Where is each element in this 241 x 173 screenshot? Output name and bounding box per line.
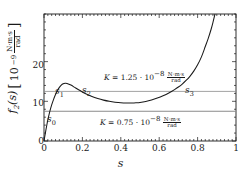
k-upper-unit-fraction: N·m·s rad (167, 72, 185, 84)
k-lower-dot: · (136, 118, 138, 127)
point-label-s1: s1 (55, 86, 64, 99)
point-label-s2: s2 (82, 85, 91, 98)
annotation-k-upper: K = 1.25 · 10−8 N·m·s rad (104, 70, 185, 84)
x-axis-label: s (0, 157, 241, 170)
k-threshold-lines (44, 91, 236, 111)
annotation-k-lower: K = 0.75 · 10−8 N·m·s rad (100, 115, 181, 129)
point-label-s0: s0 (47, 114, 56, 127)
plot-area (0, 0, 241, 173)
k-upper-equals: = (112, 73, 118, 82)
k-upper-base: 10 (145, 73, 155, 82)
k-lower-exponent: −8 (150, 115, 160, 123)
point-label-s3: s3 (185, 85, 194, 98)
k-upper-dot: · (140, 73, 142, 82)
k-upper-symbol: K (104, 73, 110, 82)
k-lower-unit-denominator: rad (166, 123, 177, 129)
k-lower-symbol: K (100, 118, 106, 127)
k-upper-unit-denominator: rad (170, 78, 181, 84)
k-upper-coefficient: 1.25 (121, 73, 138, 82)
figure-f2-of-s: f2(s) [ 10−9 N·m·s rad ] 0 10 20 0 0.2 0… (0, 0, 241, 173)
k-lower-base: 10 (141, 118, 151, 127)
k-upper-exponent: −8 (154, 70, 164, 78)
k-lower-coefficient: 0.75 (117, 118, 134, 127)
k-lower-unit-fraction: N·m·s rad (163, 117, 181, 129)
k-lower-equals: = (108, 118, 114, 127)
